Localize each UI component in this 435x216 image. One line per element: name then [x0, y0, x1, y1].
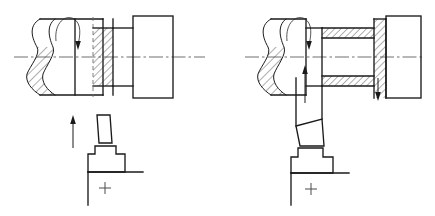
cutting-groove-section [93, 19, 113, 95]
left-machining-diagram [14, 16, 205, 205]
right-machining-diagram [245, 16, 425, 205]
rotation-arrow [56, 18, 81, 50]
bore-wall-lower [322, 76, 374, 86]
end-wall-section [374, 19, 386, 98]
tool-guide-lines [296, 78, 322, 126]
tool-holder [88, 115, 125, 172]
tool-holder [291, 119, 333, 173]
tool-base-plate [291, 173, 349, 205]
feed-arrow-up [70, 115, 76, 148]
drawing-canvas [0, 0, 435, 216]
origin-cross-mark [99, 182, 111, 194]
bore-wall-upper [322, 28, 374, 38]
origin-cross-mark [305, 183, 317, 195]
engineering-drawing-svg [0, 0, 435, 216]
feed-arrow-up [302, 65, 308, 103]
tool-base-plate [88, 172, 143, 205]
rotation-arrow [287, 18, 312, 50]
